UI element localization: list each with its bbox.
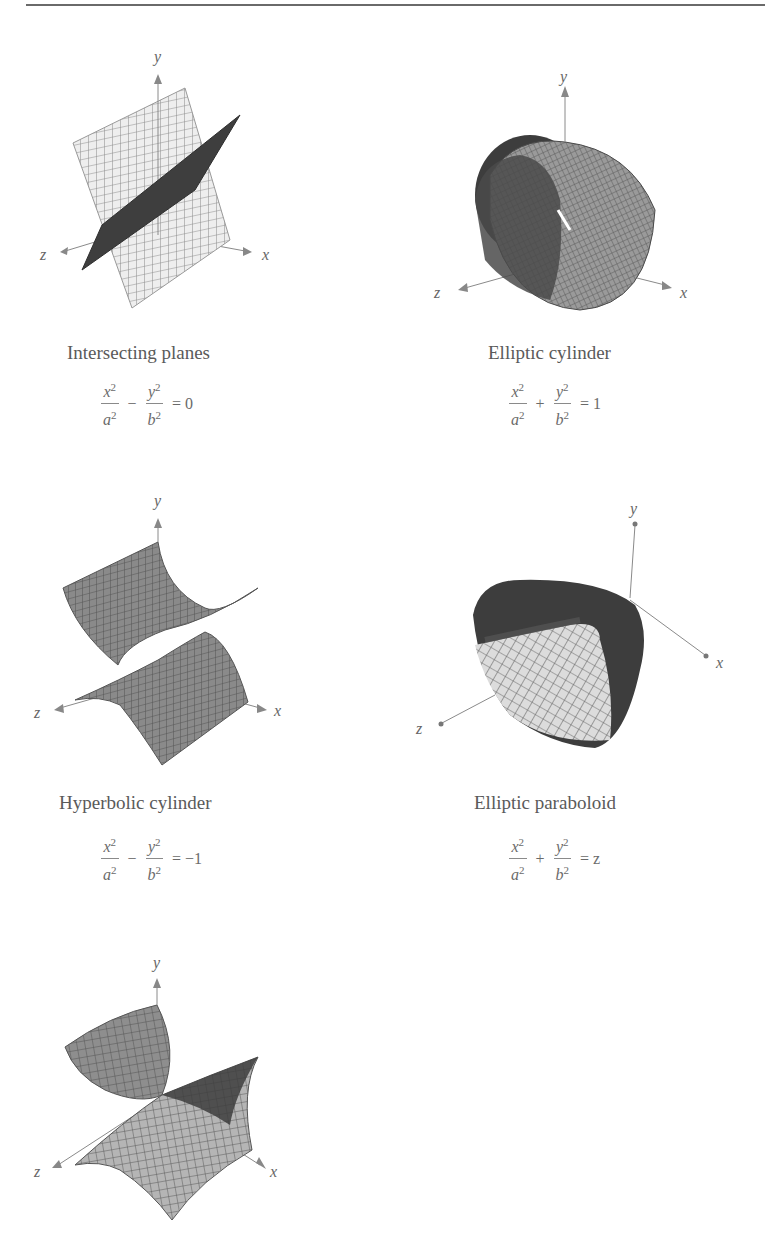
y-axis-label: y [152, 492, 162, 510]
x-axis-label: x [679, 284, 687, 301]
x-axis-label: x [269, 1163, 277, 1180]
y-axis-label: y [628, 500, 638, 518]
caption-intersecting-planes: Intersecting planes [67, 342, 210, 364]
y-axis-label: y [558, 68, 568, 86]
equation-elliptic-paraboloid: x2 a2 + y2 b2 = z [505, 833, 605, 885]
z-axis-label: z [33, 1163, 41, 1180]
equation-elliptic-cylinder: x2 a2 + y2 b2 = 1 [505, 378, 606, 430]
figure-intersecting-planes: y z x [40, 40, 300, 340]
hyperbolic-paraboloid-graphic: y z x [30, 920, 310, 1230]
operator: − [128, 395, 137, 413]
figure-hyperbolic-paraboloid: y z x [30, 920, 310, 1230]
figure-elliptic-cylinder: y z x [400, 60, 720, 320]
z-axis-label: z [415, 720, 423, 737]
elliptic-paraboloid-graphic: y z x [400, 480, 740, 780]
y-axis-label: y [151, 954, 161, 972]
intersecting-planes-graphic: y z x [40, 40, 300, 340]
caption-elliptic-paraboloid: Elliptic paraboloid [474, 792, 616, 814]
fraction-x-over-a: x2 a2 [101, 378, 119, 430]
fraction-y-over-b: y2 b2 [146, 378, 164, 430]
x-axis-label: x [715, 654, 723, 671]
caption-elliptic-cylinder: Elliptic cylinder [488, 342, 611, 364]
elliptic-cylinder-graphic: y z x [400, 60, 720, 320]
hyperbolic-cylinder-graphic: y z x [40, 480, 300, 780]
figure-elliptic-paraboloid: y z x [400, 480, 740, 780]
figure-hyperbolic-cylinder: y z x [40, 480, 300, 780]
equation-intersecting-planes: x2 a2 − y2 b2 = 0 [97, 378, 198, 430]
top-rule-divider [26, 4, 765, 6]
paraboloid-inner-grid [475, 624, 611, 741]
x-axis-label: x [261, 246, 269, 263]
z-axis-label: z [433, 284, 441, 301]
x-axis-label: x [273, 702, 281, 719]
equation-rhs: = 0 [172, 395, 193, 413]
saddle-upper-lobe [65, 1005, 170, 1099]
caption-hyperbolic-cylinder: Hyperbolic cylinder [59, 792, 211, 814]
upper-sheet [63, 542, 258, 665]
equation-hyperbolic-cylinder: x2 a2 − y2 b2 = −1 [97, 833, 207, 885]
lower-sheet [75, 632, 248, 765]
z-axis-label: z [39, 246, 47, 263]
y-axis-label: y [152, 48, 162, 66]
z-axis-label: z [33, 704, 41, 721]
